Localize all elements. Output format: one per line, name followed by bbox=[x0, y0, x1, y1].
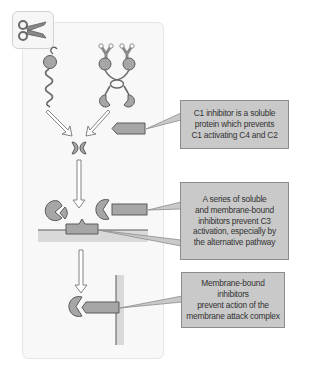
callout-mac-inhibitors: Membrane-bound inhibitors prevent action… bbox=[181, 272, 285, 328]
arrow-right-converge bbox=[86, 110, 110, 136]
arrow-left-converge bbox=[46, 110, 72, 136]
callout-c3-inhibitors: A series of soluble and membrane-bound i… bbox=[180, 182, 289, 260]
callout-pointer-c1 bbox=[146, 113, 181, 129]
c4-c2-fragments bbox=[72, 142, 86, 154]
arrow-down-1 bbox=[73, 160, 85, 208]
callout-pointer-mac bbox=[120, 296, 182, 308]
membrane-bound-inhibitor bbox=[66, 219, 98, 234]
mac-complex bbox=[69, 297, 119, 317]
c1-inhibitor-shape bbox=[112, 123, 145, 134]
callout-c3-text: A series of soluble and membrane-bound i… bbox=[193, 194, 276, 248]
antibody-c1-complex bbox=[99, 44, 135, 107]
c3-convertase bbox=[45, 199, 147, 220]
callout-mac-text: Membrane-bound inhibitors prevent action… bbox=[185, 278, 281, 321]
c1q-molecule-left bbox=[44, 47, 58, 107]
callout-c1-text: C1 inhibitor is a soluble protein which … bbox=[191, 108, 277, 140]
callout-pointer-c3-soluble bbox=[148, 202, 181, 210]
callout-c1-inhibitor: C1 inhibitor is a soluble protein which … bbox=[180, 100, 289, 149]
arrow-down-2 bbox=[75, 250, 87, 293]
